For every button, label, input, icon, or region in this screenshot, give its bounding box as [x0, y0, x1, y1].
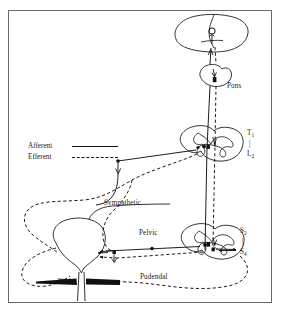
label-l2-subscript: 2	[252, 153, 255, 159]
label-thoracolumbar-l2: L2	[247, 151, 254, 158]
label-s4-subscript: 4	[244, 251, 247, 257]
label-thoracolumbar-dash: |	[249, 141, 251, 148]
bladder-neck-arrows	[98, 253, 108, 254]
label-sacral-s4: S4	[240, 249, 247, 256]
legend-label-efferent: Efferent	[28, 153, 51, 161]
bladder-outline	[53, 204, 170, 273]
legend-line-dashed	[72, 157, 118, 158]
label-pudendal-nerve: Pudendal	[140, 274, 168, 281]
pontine-micturition-center	[212, 69, 217, 82]
label-pelvic-nerve: Pelvic	[139, 230, 158, 237]
legend: Afferent Efferent	[28, 142, 120, 164]
label-t1-letter: T	[247, 129, 252, 137]
label-sympathetic-nerve: Sympathetic	[104, 200, 141, 207]
legend-line-solid	[72, 146, 118, 147]
label-sacral-dash: |	[242, 239, 244, 246]
urethra	[78, 272, 86, 301]
ascending-afferent-tract	[205, 48, 213, 250]
label-sacral-s2: S2	[240, 228, 247, 235]
sacral-spinal-cord-cross-section	[181, 224, 244, 260]
thoracolumbar-spinal-cord-cross-section	[180, 126, 243, 162]
legend-label-afferent: Afferent	[28, 142, 52, 150]
label-pons: Pons	[227, 83, 241, 90]
thoracolumbar-synapse-markers	[196, 145, 210, 150]
label-s2-subscript: 2	[244, 230, 247, 236]
sacral-synapse-markers	[203, 242, 236, 251]
figure-root: Pons T1 | L2 S2 | S4 Sympathetic Pelvic …	[0, 0, 282, 313]
label-l2-letter: L	[247, 150, 252, 158]
pudendal-efferent-path	[116, 256, 248, 289]
label-thoracolumbar-t1: T1	[247, 130, 254, 137]
legend-item-efferent: Efferent	[28, 153, 120, 164]
pelvic-efferent-path	[100, 250, 203, 263]
legend-item-afferent: Afferent	[28, 142, 120, 153]
cortical-neuron-cell-body	[209, 28, 215, 44]
label-t1-subscript: 1	[252, 132, 255, 138]
cerebrum-outline	[175, 14, 248, 52]
